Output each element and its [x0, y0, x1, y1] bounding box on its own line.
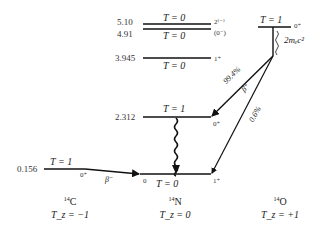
nucleus-label-n14: 14N: [160, 196, 190, 207]
tz-label-n14: T_z = 0: [145, 210, 205, 220]
isospin-label-c14: T = 1: [50, 157, 72, 167]
nucleus-label-c14: 14C: [55, 196, 85, 207]
isospin-label-2-312: T = 1: [163, 104, 185, 114]
isospin-label-ground: T = 0: [156, 179, 178, 189]
jp-label-c14: 0⁺: [80, 172, 87, 179]
energy-label-4-91: 4.91: [117, 30, 133, 39]
beta-minus-arrow: [85, 169, 139, 174]
beta-minus-label: β⁻: [105, 176, 113, 184]
jp-label-3-945: 1⁺: [214, 56, 221, 63]
beta-plus-arrow-ground: [212, 56, 273, 173]
gamma-arrowhead: [172, 165, 180, 174]
isospin-label-5-10: T = 0: [163, 13, 185, 23]
nucleus-label-o14: 14O: [265, 196, 295, 207]
isospin-label-o14: T = 1: [260, 15, 282, 25]
energy-label-2-312: 2.312: [115, 113, 135, 122]
ground-zero-label: 0: [143, 178, 147, 185]
energy-label-3-945: 3.945: [115, 54, 135, 63]
isospin-label-3-945: T = 0: [163, 61, 185, 71]
tz-label-c14: T_z = −1: [40, 210, 100, 220]
jp-label-ground: 1⁺: [213, 178, 220, 185]
tz-label-o14: T_z = +1: [248, 210, 312, 220]
gap-label-2mec2: 2mₑc²: [284, 36, 304, 45]
energy-label-5-10: 5.10: [117, 18, 133, 27]
jp-label-o14: 0⁺: [294, 23, 301, 30]
isospin-label-4-91: T = 0: [163, 31, 185, 41]
jp-label-5-10: 2⁽⁻⁾: [214, 19, 225, 26]
energy-label-c14: 0.156: [17, 165, 37, 174]
jp-label-2-312: 0⁺: [213, 121, 220, 128]
jp-label-4-91: (0⁻): [214, 30, 226, 37]
brace-icon: [276, 31, 279, 55]
